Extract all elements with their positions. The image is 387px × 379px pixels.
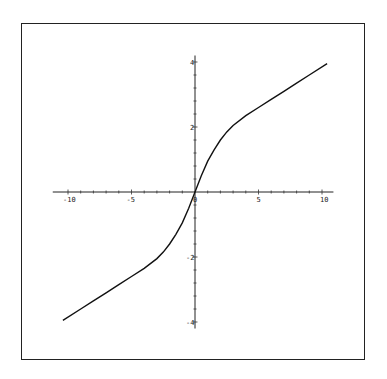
x-tick-label: -10 — [63, 196, 76, 204]
plot-area: -10-50510-4-224 — [0, 0, 387, 379]
x-tick-label: -5 — [127, 196, 135, 204]
y-tick-label: -2 — [186, 254, 194, 262]
x-tick-label: 10 — [320, 196, 328, 204]
y-tick-label: 2 — [190, 124, 194, 132]
y-tick-label: 4 — [190, 59, 194, 67]
x-tick-label: 5 — [257, 196, 261, 204]
axes — [53, 56, 334, 329]
y-tick-label: -4 — [186, 319, 194, 327]
